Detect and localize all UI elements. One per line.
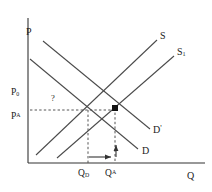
quantity-tick-qd-main: Q (78, 168, 85, 178)
curve-label-supply-shifted: S1 (177, 47, 186, 58)
curve-label-demand-main: D (142, 145, 149, 156)
axis-lines (28, 18, 205, 163)
price-tick-pa: PA (11, 112, 21, 122)
equilibrium-markers (112, 105, 118, 111)
price-tick-p0: P0 (11, 88, 19, 98)
curve-label-demand-shifted-prime: ' (160, 124, 161, 133)
supply-demand-figure: P Q P0 PA QD QA S S1 D' D ? (0, 0, 212, 192)
equilibrium-marker-final (112, 105, 118, 111)
demand-curves (30, 41, 150, 149)
supply-curves (36, 40, 174, 158)
x-axis-label: Q (187, 171, 194, 181)
price-tick-pa-sup: A (16, 112, 20, 118)
question-mark-annotation: ? (51, 94, 55, 103)
price-tick-p0-sub: 0 (16, 91, 19, 97)
curve-demand (30, 59, 138, 149)
curve-label-demand: D (142, 146, 149, 156)
quantity-tick-qd-sub: D (85, 172, 89, 178)
curve-label-supply: S (160, 31, 166, 41)
quantity-tick-qa-main: Q (105, 168, 112, 178)
curve-label-supply-main: S (160, 30, 166, 41)
quantity-tick-qd: QD (78, 169, 89, 179)
curve-demand-shifted (43, 41, 150, 129)
guide-lines (30, 108, 115, 163)
quantity-tick-qa: QA (105, 169, 116, 179)
y-axis-label: P (26, 27, 32, 37)
shift-arrows (89, 145, 116, 157)
curve-label-supply-shifted-sub: 1 (183, 50, 186, 57)
quantity-tick-qa-sup: A (112, 169, 116, 175)
curve-label-demand-shifted: D' (153, 125, 162, 135)
